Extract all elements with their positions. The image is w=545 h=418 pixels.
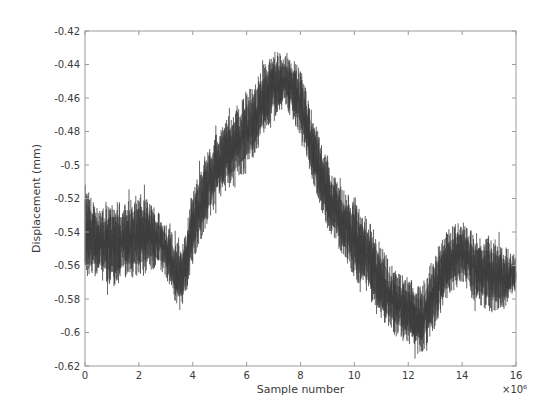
signal-trace xyxy=(85,52,516,359)
x-axis-label: Sample number xyxy=(257,383,345,396)
y-tick-label: -0.52 xyxy=(54,193,80,204)
y-tick-label: -0.44 xyxy=(54,59,80,70)
y-tick-label: -0.54 xyxy=(54,227,80,238)
x-tick-label: 16 xyxy=(510,370,523,381)
y-tick-label: -0.6 xyxy=(60,327,80,338)
signal-noise-trace xyxy=(85,52,516,359)
x-axis-multiplier: ×10⁶ xyxy=(502,384,527,395)
y-tick-label: -0.56 xyxy=(54,260,80,271)
x-tick-label: 6 xyxy=(243,370,249,381)
y-tick-label: -0.5 xyxy=(60,160,80,171)
x-tick-label: 0 xyxy=(82,370,88,381)
x-tick-label: 2 xyxy=(136,370,142,381)
displacement-chart: 0246810121416 -0.42-0.44-0.46-0.48-0.5-0… xyxy=(0,0,545,418)
y-tick-label: -0.42 xyxy=(54,26,80,37)
x-tick-label: 10 xyxy=(348,370,361,381)
y-tick-label: -0.58 xyxy=(54,294,80,305)
x-tick-label: 14 xyxy=(456,370,469,381)
y-tick-label: -0.62 xyxy=(54,361,80,372)
y-tick-label: -0.48 xyxy=(54,126,80,137)
x-tick-label: 4 xyxy=(190,370,196,381)
x-tick-label: 12 xyxy=(402,370,415,381)
y-tick-label: -0.46 xyxy=(54,93,80,104)
x-tick-label: 8 xyxy=(297,370,303,381)
y-axis-label: Displacement (mm) xyxy=(30,144,43,253)
